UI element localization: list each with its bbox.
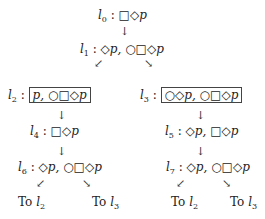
boxed-formula: ○◇p, ○□◇p [161,87,243,103]
node-label: l0 [98,8,107,22]
arrow-down-right-icon: ↘ [82,178,91,190]
boxed-formula: p, ○□◇p [29,87,91,103]
goto-l3-from-l6: To l3 [92,195,119,214]
node-l2: l2 : p, ○□◇p [8,88,91,107]
node-l3: l3 : ○◇p, ○□◇p [140,88,242,107]
arrow-down-left-icon: ↙ [94,58,103,70]
node-l4: l4 : □◇p [30,124,79,143]
goto-l3-from-l7: To l3 [230,195,257,214]
arrow-down-left-icon: ↙ [36,178,45,190]
arrow-down-left-icon: ↙ [176,178,185,190]
arrow-down-icon: ↓ [57,110,66,122]
goto-l2-from-l6: To l2 [18,195,45,214]
arrow-down-icon: ↓ [196,146,205,158]
arrow-down-right-icon: ↘ [144,58,153,70]
arrow-down-icon: ↓ [196,110,205,122]
arrow-down-icon: ↓ [57,146,66,158]
node-l5: l5 : ◇p, □◇p [165,124,238,143]
node-formula: □◇p [119,8,147,22]
arrow-down-icon: ↓ [120,26,129,38]
goto-l2-from-l7: To l2 [171,195,198,214]
node-formula: ◇p, ○□◇p [101,42,164,56]
arrow-down-right-icon: ↘ [222,178,231,190]
